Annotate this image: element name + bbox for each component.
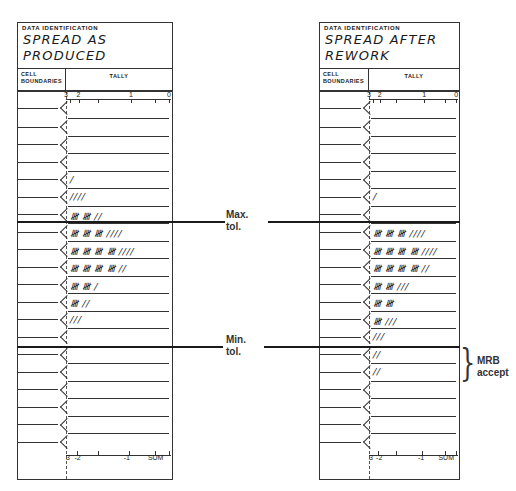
cell-boundary-chevron-icon [363, 400, 377, 414]
cell-boundary-line [320, 232, 361, 233]
cell-boundary-chevron-icon [60, 120, 74, 134]
tally-row-line [371, 188, 456, 189]
tally-marks: 𝍸 𝍸 [373, 296, 394, 313]
cell-boundary-line [320, 389, 361, 390]
scale-tick [131, 99, 132, 103]
tally-row-line [371, 153, 456, 154]
tally-row-line [371, 363, 456, 364]
scale-tick [456, 99, 457, 103]
cell-boundary-line [18, 442, 58, 443]
cell-boundary-line [18, 284, 58, 285]
tally-marks: 𝍸 𝍸 / [70, 279, 98, 296]
bottom-scale-tick-label: SUM [148, 454, 164, 461]
tally-row-line [371, 398, 456, 399]
cell-boundary-line [18, 179, 58, 180]
min-tolerance-line-right [264, 346, 460, 348]
cell-boundary-line [18, 144, 58, 145]
cell-boundary-line [18, 197, 58, 198]
cell-boundary-line [18, 127, 58, 128]
tally-header: TALLY [66, 68, 172, 90]
scale-tick [396, 451, 397, 455]
scale-tick [378, 451, 379, 455]
cell-boundary-line [320, 249, 361, 250]
cell-boundary-chevron-icon [60, 418, 74, 432]
scale-tick [445, 99, 446, 103]
tally-row-line [371, 136, 456, 137]
tally-marks: 𝍸 𝍸 𝍸 𝍸 //// [373, 244, 437, 261]
tally-row-line [371, 171, 456, 172]
scale-tick [456, 451, 457, 455]
top-scale-tick-label: 0 [454, 91, 458, 98]
cell-boundary-chevron-icon [60, 101, 74, 115]
cell-boundary-line [18, 424, 58, 425]
cell-boundaries-header: CELL BOUNDARIES [18, 68, 66, 90]
tally-row-line [68, 136, 169, 137]
cell-boundary-line [18, 389, 58, 390]
cell-boundary-chevron-icon [363, 120, 377, 134]
cell-boundary-line [320, 372, 361, 373]
tally-row-line [371, 416, 456, 417]
mrb-accept-label: MRB accept [477, 355, 509, 379]
tally-marks: 𝍸 𝍸 𝍸 //// [70, 226, 122, 243]
tally-row-line [68, 188, 169, 189]
cell-boundary-chevron-icon [60, 348, 74, 362]
cell-boundary-chevron-icon [363, 435, 377, 449]
cell-boundary-line [18, 337, 58, 338]
tally-row-line [68, 206, 169, 207]
top-scale-tick-label: 3 [64, 91, 68, 98]
tally-row-line [371, 206, 456, 207]
cell-boundary-chevron-icon [363, 418, 377, 432]
cell-boundary-line [320, 108, 361, 109]
cell-boundary-line [320, 424, 361, 425]
cell-boundary-line [18, 267, 58, 268]
tally-row-line [68, 381, 169, 382]
data-identification-box: DATA IDENTIFICATION SPREAD AFTER REWORK [320, 23, 459, 69]
data-identification-label: DATA IDENTIFICATION [22, 25, 98, 31]
sheet-title-line1: SPREAD AFTER [325, 32, 437, 47]
cell-boundary-line [18, 407, 58, 408]
scale-tick [380, 99, 381, 103]
tally-row-line [68, 328, 169, 329]
bottom-scale-tick-label: -1 [124, 454, 130, 461]
scale-tick [169, 99, 170, 103]
scale-tick [77, 451, 78, 455]
tally-marks: 𝍸 𝍸 𝍸 𝍸 //// [70, 244, 134, 261]
scale-tick [129, 451, 130, 455]
bottom-scale-tick-label: SUM [438, 454, 454, 461]
bottom-scale-tick-label: -2 [376, 454, 382, 461]
cell-boundary-chevron-icon [60, 400, 74, 414]
cell-boundary-line [320, 442, 361, 443]
tally-marks: 𝍸 𝍸 𝍸 𝍸 // [70, 261, 126, 278]
cell-boundaries-header: CELL BOUNDARIES [320, 68, 369, 90]
tally-grid: 3210/////𝍸 𝍸 //𝍸 𝍸 𝍸 ////𝍸 𝍸 𝍸 𝍸 ////𝍸 𝍸… [18, 91, 172, 479]
tally-marks: 𝍸 /// [373, 314, 397, 331]
cell-boundary-chevron-icon [363, 208, 377, 222]
top-scale-tick-label: 3 [367, 91, 371, 98]
sheet-title-line2: REWORK [325, 48, 390, 63]
cell-boundary-line [320, 267, 361, 268]
top-scale-tick-label: 1 [129, 91, 133, 98]
cell-boundary-chevron-icon [363, 138, 377, 152]
tally-row-line [371, 381, 456, 382]
cell-boundary-chevron-icon [60, 330, 74, 344]
cell-boundary-line [18, 214, 58, 215]
scale-tick [70, 99, 71, 103]
cell-boundary-line [320, 302, 361, 303]
scale-tick [79, 99, 80, 103]
tally-row-line [68, 118, 169, 119]
tally-row-line [68, 171, 169, 172]
tally-header: TALLY [369, 68, 459, 90]
cell-boundary-chevron-icon [60, 435, 74, 449]
top-scale-tick-label: 0 [167, 91, 171, 98]
bottom-scale-tick-label: 3 [369, 454, 373, 461]
cell-boundary-line [18, 249, 58, 250]
cell-boundary-chevron-icon [363, 383, 377, 397]
scale-tick [98, 99, 99, 103]
tally-row-line [371, 118, 456, 119]
tally-marks: // [373, 349, 381, 360]
tally-marks: 𝍸 𝍸 𝍸 𝍸 // [373, 261, 429, 278]
scale-tick [98, 451, 99, 455]
tally-marks: //// [70, 191, 85, 202]
cell-boundary-line [18, 354, 58, 355]
scale-tick [155, 99, 156, 103]
